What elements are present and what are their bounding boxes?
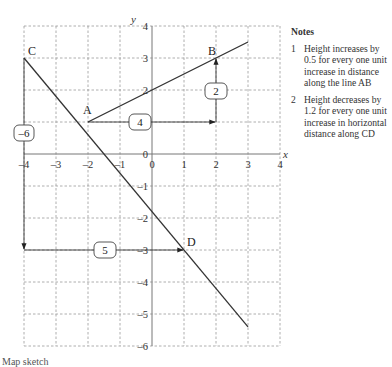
svg-text:3: 3 (245, 159, 250, 170)
coordinate-diagram: –4 –3 –2 –1 0 1 2 3 4 4 3 2 1 0 –1 –2 –3… (0, 0, 290, 367)
note-text: Height decreases by 1.2 for every one un… (304, 94, 392, 140)
note-text: Height increases by 0.5 for every one un… (304, 43, 392, 89)
value-box-run-ab: 4 (129, 114, 151, 130)
x-axis-label: x (282, 148, 288, 160)
svg-text:–6: –6 (137, 341, 149, 352)
svg-text:–3: –3 (50, 159, 62, 170)
svg-text:5: 5 (102, 244, 108, 256)
svg-text:–1: –1 (137, 181, 149, 192)
value-box-rise-cd: –6 (14, 125, 34, 141)
x-tick-labels: –4 –3 –2 –1 0 1 2 3 4 (18, 159, 284, 170)
svg-text:–3: –3 (137, 245, 149, 256)
svg-text:4: 4 (143, 21, 149, 32)
svg-text:–6: –6 (18, 127, 31, 139)
note-number: 2 (291, 94, 304, 140)
svg-text:0: 0 (143, 149, 148, 160)
svg-text:2: 2 (213, 159, 218, 170)
note-number: 1 (291, 43, 304, 89)
svg-text:4: 4 (137, 116, 143, 128)
label-a: A (83, 103, 92, 117)
svg-text:–5: –5 (137, 309, 149, 320)
svg-text:–2: –2 (82, 159, 94, 170)
y-axis-label: y (130, 13, 136, 25)
label-b: B (208, 44, 216, 58)
note-item: 1 Height increases by 0.5 for every one … (291, 43, 392, 89)
caption: Map sketch (2, 356, 48, 367)
value-box-rise-ab: 2 (205, 83, 227, 99)
svg-text:1: 1 (181, 159, 186, 170)
svg-text:–2: –2 (137, 213, 149, 224)
value-box-run-cd: 5 (94, 242, 116, 258)
label-c: C (28, 44, 36, 58)
svg-text:4: 4 (277, 159, 283, 170)
svg-text:–4: –4 (137, 277, 149, 288)
svg-text:3: 3 (143, 53, 148, 64)
notes-panel: Notes 1 Height increases by 0.5 for ever… (291, 26, 392, 145)
note-item: 2 Height decreases by 1.2 for every one … (291, 94, 392, 140)
svg-text:0: 0 (149, 159, 154, 170)
y-tick-labels: 4 3 2 1 0 –1 –2 –3 –4 –5 –6 (137, 21, 149, 352)
svg-text:2: 2 (213, 85, 219, 97)
notes-title: Notes (291, 26, 392, 38)
label-d: D (187, 235, 196, 249)
line-ab (88, 42, 248, 122)
